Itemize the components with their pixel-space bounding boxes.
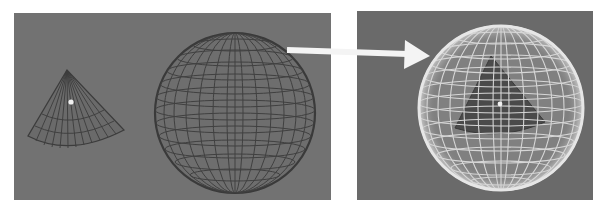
sphere-wireframe-light <box>418 25 584 191</box>
viewport-panel-before <box>14 13 331 200</box>
pivot-dot-icon <box>68 99 73 104</box>
viewport-panel-after <box>357 11 593 200</box>
sphere-wireframe <box>155 33 315 193</box>
pivot-dot-icon <box>498 102 503 107</box>
figure-canvas <box>0 0 607 211</box>
figure <box>0 0 607 211</box>
